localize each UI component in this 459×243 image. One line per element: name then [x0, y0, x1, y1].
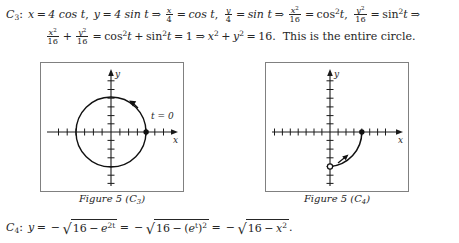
minus-sign-3: − — [223, 221, 237, 234]
fraction-numerator: y — [225, 6, 232, 14]
equals-5: = — [302, 8, 316, 21]
sin-t-1: sin t — [248, 8, 272, 21]
fraction-numerator: x2 — [289, 6, 301, 14]
exp-power-1: 2t — [108, 221, 116, 230]
y-axis-arrowhead — [108, 69, 114, 76]
fraction-denominator: 16 — [289, 14, 301, 23]
radicand-3: 16−x2 — [246, 219, 289, 235]
derivation-line-3: C4:y=−√16−e2t=−√16−(et)2=−√16−x2. — [6, 219, 293, 237]
fraction-xsq-over-16-b: x216 — [47, 28, 59, 46]
implies-arrow-4: ⇒ — [193, 30, 208, 43]
fraction-denominator: 16 — [47, 36, 59, 45]
equals-4: = — [233, 8, 247, 21]
fraction-xsq-over-16: x216 — [289, 6, 301, 24]
fraction-y-over-4: y4 — [225, 6, 232, 24]
caption-curve-id: C — [354, 193, 362, 204]
derivation-line-1: C3:x=4 cos t,y=4 sin t⇒x4=cos t,y4=sin t… — [6, 6, 423, 24]
x-power-3: 2 — [282, 221, 287, 230]
radical-2: √16−(et)2 — [146, 219, 209, 237]
x-axis-label: x — [398, 135, 403, 145]
y-axis-label: y — [333, 69, 340, 79]
equals-8: = — [171, 30, 185, 43]
numerator-exponent: 2 — [361, 5, 365, 11]
fraction-denominator: 16 — [354, 14, 366, 23]
caption-prefix: Figure 5 ( — [79, 193, 129, 204]
fraction-numerator: x2 — [47, 28, 59, 36]
open-endpoint-c4 — [327, 164, 332, 169]
equals-2: = — [100, 8, 114, 21]
numerator-exponent: 2 — [295, 5, 299, 11]
fraction-x-over-4: x4 — [166, 6, 173, 24]
numerator-exponent: 2 — [53, 27, 57, 33]
equals-1: = — [34, 8, 48, 21]
plus-1: + — [60, 30, 74, 43]
implies-arrow-3: ⇒ — [408, 8, 423, 21]
equals-10: = — [34, 221, 48, 234]
caption-prefix: Figure 5 ( — [304, 193, 354, 204]
caption-suffix: ) — [366, 193, 370, 204]
radicand-1: 16−e2t — [71, 219, 118, 235]
radicand-minus: − — [87, 222, 101, 235]
radical-3: √16−x2 — [238, 219, 289, 237]
figure-caption-c3: Figure 5 (C3) — [40, 193, 184, 206]
fraction-denominator: 4 — [225, 14, 232, 23]
conclusion-sentence: This is the entire circle. — [283, 30, 416, 43]
equals-12: = — [209, 221, 223, 234]
equals-7: = — [90, 30, 104, 43]
annotation-t-equals-0: t = 0 — [151, 111, 174, 121]
radical-1: √16−e2t — [63, 219, 118, 237]
x-axis-arrowhead — [396, 129, 403, 135]
numerator-exponent: 2 — [83, 27, 87, 33]
figure-panel-c3: t = 0 x y — [40, 62, 184, 192]
cos-squared-1: cos — [317, 8, 335, 21]
fraction-ysq-over-16-b: y216 — [76, 28, 88, 46]
period-end: . — [289, 221, 293, 234]
caption-suffix: ) — [141, 193, 145, 204]
value-one: 1 — [186, 30, 193, 43]
minus-sign-1: − — [48, 221, 62, 234]
y-variable: y — [94, 8, 100, 21]
x-axis-arrowhead — [171, 129, 178, 135]
y-axis-arrowhead — [327, 69, 333, 76]
derivation-line-2: x216+y216=cos2t+sin2t=1⇒x2+y2=16.This is… — [45, 28, 415, 46]
radicand-constant: 16 — [156, 222, 170, 235]
fraction-numerator: y2 — [354, 6, 366, 14]
radicand-constant: 16 — [248, 222, 262, 235]
filled-endpoint-c4 — [359, 129, 364, 134]
fraction-numerator: y2 — [76, 28, 88, 36]
fraction-ysq-over-16: y216 — [354, 6, 366, 24]
sin-squared-2: sin — [146, 30, 162, 43]
figure-caption-c4: Figure 5 (C4) — [265, 193, 409, 206]
equals-9: = — [244, 30, 258, 43]
cos-squared-2: cos — [104, 30, 122, 43]
radicand-2: 16−(et)2 — [154, 219, 209, 235]
plus-3: + — [219, 30, 233, 43]
implies-arrow-2: ⇒ — [272, 8, 287, 21]
figure-c3-plot: t = 0 x y — [41, 63, 183, 191]
fraction-denominator: 4 — [166, 14, 173, 23]
radicand-constant: 16 — [73, 222, 87, 235]
cos-t-1: cos t — [188, 8, 214, 21]
fraction-denominator: 16 — [76, 36, 88, 45]
equals-11: = — [117, 221, 131, 234]
start-point-c3 — [143, 129, 148, 134]
radicand-minus: − — [262, 222, 276, 235]
figure-c4-plot: x y — [266, 63, 408, 191]
caption-curve-id: C — [129, 193, 137, 204]
minus-sign-2: − — [132, 221, 146, 234]
x-parametric-expr: 4 cos t — [48, 8, 85, 21]
sin-squared-1: sin — [382, 8, 398, 21]
equals-3: = — [174, 8, 188, 21]
y-parametric-expr: 4 sin t — [114, 8, 149, 21]
implies-arrow-1: ⇒ — [149, 8, 164, 21]
value-sixteen: 16. — [258, 30, 276, 43]
curve-arc-c4 — [330, 132, 362, 167]
fraction-numerator: x — [166, 6, 173, 14]
x-axis-label: x — [173, 135, 178, 145]
exp-outer-power: 2 — [202, 221, 207, 230]
figure-panel-c4: x y — [265, 62, 409, 192]
plus-2: + — [132, 30, 146, 43]
equals-6: = — [368, 8, 382, 21]
radicand-minus: − — [170, 222, 184, 235]
y-axis-label: y — [114, 69, 121, 79]
